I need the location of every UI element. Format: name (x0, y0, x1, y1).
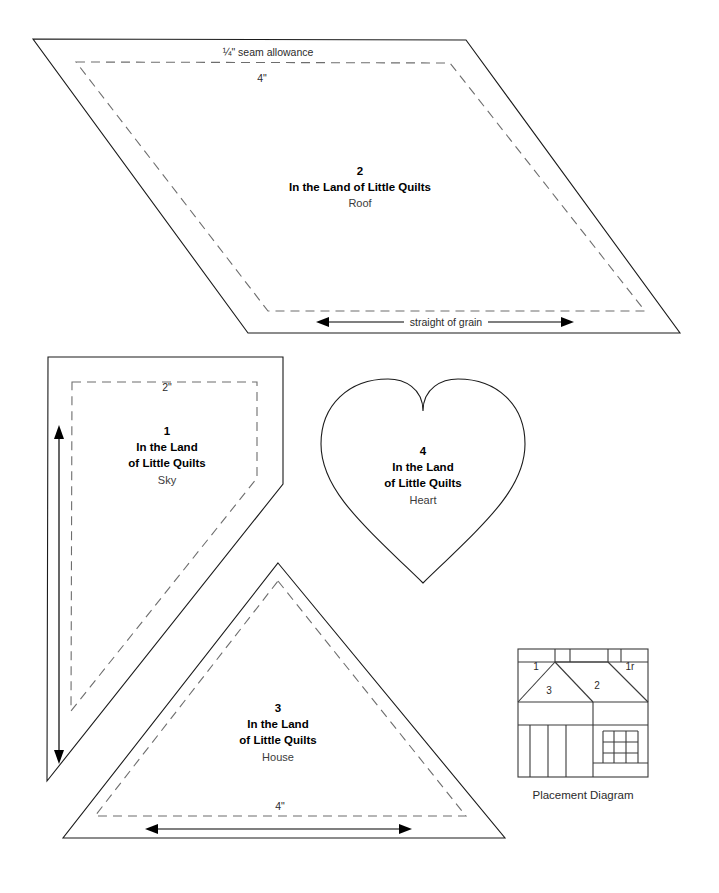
sky-piece-number: 1 (164, 425, 171, 437)
placement-diagram-caption: Placement Diagram (533, 789, 634, 801)
house-seam-line (95, 581, 466, 816)
heart-piece-part: Heart (410, 494, 437, 506)
placement-label-1r: 1r (626, 661, 636, 672)
piece-heart: 4 In the Land of Little Quilts Heart (321, 379, 525, 583)
house-piece-number: 3 (275, 702, 281, 714)
sky-grain-arrow (54, 425, 64, 764)
roof-grain-label: straight of grain (410, 316, 483, 328)
roof-seam-allowance-note: ¼" seam allowance (223, 46, 314, 58)
pattern-sheet: ¼" seam allowance 4" 2 In the Land of Li… (0, 0, 719, 893)
roof-piece-part: Roof (348, 197, 372, 209)
heart-piece-title-line2: of Little Quilts (384, 477, 461, 489)
heart-piece-number: 4 (420, 445, 427, 457)
roof-piece-title: In the Land of Little Quilts (289, 181, 431, 193)
house-piece-part: House (262, 751, 294, 763)
roof-dimension-label: 4" (257, 72, 267, 84)
heart-piece-title-line1: In the Land (392, 461, 453, 473)
house-grain-arrow (145, 824, 412, 834)
house-dimension-label: 4" (275, 800, 285, 812)
house-piece-title-line1: In the Land (247, 718, 308, 730)
house-piece-title-line2: of Little Quilts (239, 734, 316, 746)
house-cut-line (63, 563, 505, 838)
placement-diagram: 1 1r 3 2 Placement Diagram (518, 649, 648, 801)
sky-piece-title-line2: of Little Quilts (128, 457, 205, 469)
sky-piece-title-line1: In the Land (136, 441, 197, 453)
piece-house: 3 In the Land of Little Quilts House 4" (63, 563, 505, 838)
placement-label-2: 2 (594, 680, 600, 691)
roof-piece-number: 2 (357, 165, 363, 177)
sky-piece-part: Sky (158, 474, 177, 486)
piece-roof: ¼" seam allowance 4" 2 In the Land of Li… (33, 39, 680, 333)
pattern-sheet-canvas: ¼" seam allowance 4" 2 In the Land of Li… (0, 0, 719, 893)
sky-dimension-label: 2" (162, 381, 172, 393)
placement-label-3: 3 (546, 685, 552, 696)
placement-label-1: 1 (533, 661, 539, 672)
